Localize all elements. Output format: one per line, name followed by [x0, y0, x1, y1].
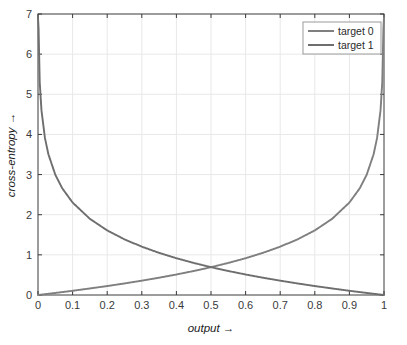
y-tick-label: 4 [26, 128, 32, 140]
x-tick-label: 0.5 [203, 299, 218, 311]
x-tick-label: 0.8 [307, 299, 322, 311]
x-tick-label: 0 [35, 299, 41, 311]
y-tick-label: 1 [26, 249, 32, 261]
y-tick-label: 2 [26, 209, 32, 221]
chart-legend: target 0 target 1 [303, 22, 381, 54]
x-tick-label: 0.1 [65, 299, 80, 311]
y-tick-label: 0 [26, 289, 32, 301]
legend-label-target-1: target 1 [338, 39, 374, 51]
y-axis-title: cross-entropy → [5, 113, 17, 197]
x-tick-label: 0.4 [169, 299, 184, 311]
x-tick-label: 0.3 [134, 299, 149, 311]
x-tick-label: 0.2 [100, 299, 115, 311]
chart-figure: 00.10.20.30.40.50.60.70.80.91 01234567 o… [0, 0, 407, 345]
legend-label-target-0: target 0 [338, 25, 374, 37]
y-tick-label: 5 [26, 88, 32, 100]
cross-entropy-line-chart: 00.10.20.30.40.50.60.70.80.91 01234567 o… [0, 0, 407, 345]
x-tick-label: 0.9 [342, 299, 357, 311]
x-tick-label: 1 [381, 299, 387, 311]
x-tick-label: 0.7 [273, 299, 288, 311]
y-tick-label: 7 [26, 8, 32, 20]
y-tick-label: 6 [26, 48, 32, 60]
x-tick-label: 0.6 [238, 299, 253, 311]
x-axis-title: output → [188, 322, 235, 334]
y-tick-label: 3 [26, 169, 32, 181]
